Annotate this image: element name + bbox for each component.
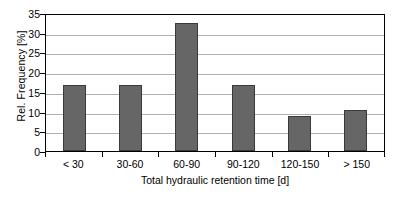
- x-axis-tick-mark: [215, 152, 216, 157]
- x-axis-tick-label: 90-120: [215, 158, 272, 172]
- bar: [63, 85, 86, 151]
- x-axis-title: Total hydraulic retention time [d]: [45, 174, 385, 187]
- y-axis-tick-labels: 05101520253035: [14, 14, 40, 152]
- y-axis-tick-label: 5: [14, 127, 40, 137]
- y-axis-tick-label: 25: [14, 48, 40, 58]
- x-axis-tick-label: > 150: [328, 158, 385, 172]
- bar: [119, 85, 142, 151]
- bars-layer: [46, 15, 384, 151]
- y-axis-tick-label: 0: [14, 147, 40, 157]
- bar: [288, 116, 311, 151]
- bar-slot: [159, 15, 215, 151]
- y-axis-tick-label: 15: [14, 88, 40, 98]
- x-axis-tick-marks: [45, 152, 385, 157]
- x-axis-tick-mark: [45, 152, 46, 157]
- y-axis-tick-label: 20: [14, 68, 40, 78]
- bar: [175, 23, 198, 151]
- y-axis-tick-label: 30: [14, 29, 40, 39]
- y-axis-tick-label: 10: [14, 108, 40, 118]
- x-axis-tick-mark: [158, 152, 159, 157]
- bar-slot: [215, 15, 271, 151]
- x-axis-tick-label: 60-90: [158, 158, 215, 172]
- bar-slot: [46, 15, 102, 151]
- bar-slot: [271, 15, 327, 151]
- plot-area: [45, 14, 385, 152]
- bar-chart: Rel. Frequency [%] 05101520253035 < 3030…: [0, 0, 404, 205]
- bar-slot: [328, 15, 384, 151]
- x-axis-tick-label: 30-60: [102, 158, 159, 172]
- x-axis-tick-mark: [272, 152, 273, 157]
- x-axis-tick-label: < 30: [45, 158, 102, 172]
- y-axis-tick-label: 35: [14, 9, 40, 19]
- bar-slot: [102, 15, 158, 151]
- x-axis-tick-label: 120-150: [272, 158, 329, 172]
- x-axis-tick-mark: [102, 152, 103, 157]
- x-axis-tick-mark: [384, 152, 385, 157]
- bar: [344, 110, 367, 151]
- bar: [232, 85, 255, 151]
- x-axis-tick-mark: [328, 152, 329, 157]
- x-axis-tick-labels: < 3030-6060-9090-120120-150> 150: [45, 158, 385, 172]
